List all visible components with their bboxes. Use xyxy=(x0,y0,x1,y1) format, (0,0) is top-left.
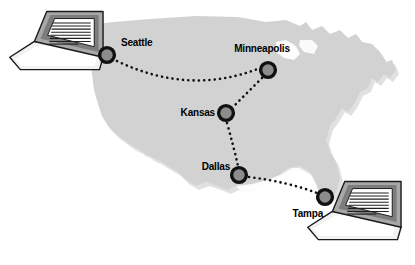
laptop-top-left xyxy=(10,12,103,70)
diagram-canvas: Seattle Minneapolis Kansas Dallas Tampa xyxy=(0,0,415,265)
city-label-kansas: Kansas xyxy=(181,107,216,118)
network-diagram: Seattle Minneapolis Kansas Dallas Tampa xyxy=(0,0,415,265)
city-label-tampa: Tampa xyxy=(293,208,324,219)
city-node-minneapolis[interactable] xyxy=(261,63,276,78)
city-label-seattle: Seattle xyxy=(121,37,153,48)
city-label-minneapolis: Minneapolis xyxy=(234,43,290,54)
city-label-dallas: Dallas xyxy=(202,161,231,172)
city-node-dallas[interactable] xyxy=(232,168,247,183)
city-node-kansas[interactable] xyxy=(219,106,234,121)
city-node-seattle[interactable] xyxy=(100,48,115,63)
city-node-tampa[interactable] xyxy=(318,190,333,205)
